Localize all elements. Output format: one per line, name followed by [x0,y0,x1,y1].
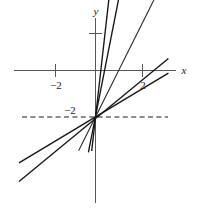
coordinate-plane-figure: x y −2 2 −2 [0,0,204,211]
x-axis-label: x [181,64,187,76]
pencil-line-3 [79,0,156,151]
x-tick-label-negative-2: −2 [50,79,62,91]
pencil-line-1 [92,0,110,151]
y-axis-label: y [93,5,99,17]
pencil-line-2 [88,0,119,152]
pencil-line-5 [19,73,168,163]
x-tick-label-positive-2: 2 [140,79,146,91]
y-intercept-label-negative-2: −2 [64,104,76,116]
pencil-line-4 [19,59,168,182]
figure-root: x y −2 2 −2 [0,0,204,211]
